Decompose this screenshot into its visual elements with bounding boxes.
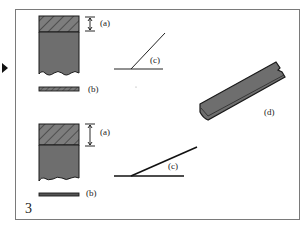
label-d: (d) <box>264 108 275 117</box>
label-c-bottom: (c) <box>168 162 178 171</box>
bottom-block <box>39 124 79 181</box>
bottom-strip-b <box>39 193 79 196</box>
label-b-bottom: (b) <box>86 189 97 198</box>
top-dimension-a <box>85 17 95 31</box>
label-c-top: (c) <box>150 56 160 65</box>
label-b-top: (b) <box>88 85 99 94</box>
label-a-bottom: (a) <box>100 128 110 137</box>
top-block <box>39 16 79 75</box>
figure-number: 3 <box>25 202 32 216</box>
label-a-top: (a) <box>100 19 110 28</box>
bottom-dimension-a <box>85 124 95 146</box>
bottom-angle-c <box>114 147 197 176</box>
diagram-art <box>0 0 308 228</box>
top-strip-b <box>39 87 79 91</box>
